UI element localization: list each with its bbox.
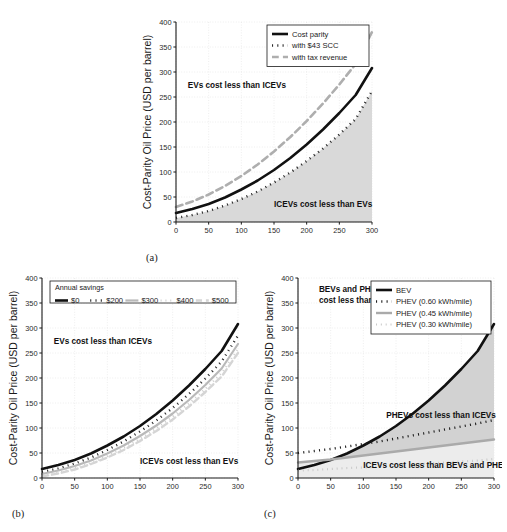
- chart-panel-a: 0501001502002503003504000501001502002503…: [140, 16, 380, 238]
- x-tick-label: 100: [357, 482, 369, 491]
- y-tick-label: 300: [25, 324, 37, 333]
- legend-label-3: PHEV (0.30 kWh/mile): [396, 320, 472, 329]
- y-tick-label: 400: [281, 274, 293, 283]
- chart-panel-b: 0501001502002503003504000501001502002503…: [6, 272, 246, 494]
- legend-label-0: BEV: [396, 286, 412, 295]
- plot-annotation: PHEVs cost less than ICEVs: [386, 411, 496, 420]
- x-axis-label: Battery Price (USD per kWh): [207, 236, 341, 238]
- grid-lines: [42, 278, 238, 478]
- x-tick-label: 150: [390, 482, 402, 491]
- panel-letter-a: (a): [146, 252, 158, 263]
- x-tick-label: 250: [333, 226, 345, 235]
- y-tick-label: 250: [159, 93, 171, 102]
- chart-svg: 0501001502002503003504000501001502002503…: [258, 272, 502, 494]
- y-tick-label: 100: [25, 424, 37, 433]
- chart-svg: 0501001502002503003504000501001502002503…: [6, 272, 246, 494]
- figure-container: 0501001502002503003504000501001502002503…: [0, 0, 507, 532]
- y-tick-label: 100: [159, 168, 171, 177]
- y-tick-label: 150: [25, 399, 37, 408]
- legend-title: Annual savings: [55, 283, 104, 292]
- y-tick-label: 300: [159, 68, 171, 77]
- x-axis-label: Battery Price (USD per kWh): [73, 492, 207, 494]
- x-tick-label: 150: [268, 226, 280, 235]
- x-tick-label: 150: [134, 482, 146, 491]
- y-tick-label: 50: [29, 449, 37, 458]
- y-tick-label: 200: [25, 374, 37, 383]
- y-tick-label: 100: [281, 424, 293, 433]
- legend-label-1: PHEV (0.60 kWh/mile): [396, 297, 472, 306]
- y-tick-label: 0: [167, 218, 171, 227]
- chart-legend: BEVPHEV (0.60 kWh/mile)PHEV (0.45 kWh/mi…: [371, 281, 491, 334]
- x-tick-label: 200: [300, 226, 312, 235]
- y-tick-label: 400: [25, 274, 37, 283]
- legend-label-3: $400: [177, 296, 194, 305]
- legend-label-0: Cost parity: [292, 30, 328, 39]
- y-axis-label: Cost-Parity Oil Price (USD per barrel): [7, 291, 19, 465]
- x-tick-label: 100: [101, 482, 113, 491]
- faint-header-artifact: [0, 0, 507, 14]
- x-tick-label: 250: [199, 482, 211, 491]
- plot-annotation: ICEVs cost less than BEVs and PHEVs: [363, 461, 502, 470]
- x-tick-label: 0: [174, 226, 178, 235]
- legend-label-1: $200: [106, 296, 123, 305]
- y-tick-label: 150: [159, 143, 171, 152]
- x-tick-label: 200: [166, 482, 178, 491]
- x-tick-label: 100: [235, 226, 247, 235]
- legend-label-2: with tax revenue: [291, 53, 347, 62]
- x-tick-label: 50: [327, 482, 335, 491]
- y-tick-label: 200: [159, 118, 171, 127]
- chart-panel-c: 0501001502002503003504000501001502002503…: [258, 272, 502, 494]
- legend-label-2: PHEV (0.45 kWh/mile): [396, 309, 472, 318]
- y-tick-label: 150: [281, 399, 293, 408]
- y-tick-label: 50: [285, 449, 293, 458]
- x-tick-label: 200: [422, 482, 434, 491]
- y-tick-label: 350: [281, 299, 293, 308]
- x-tick-label: 50: [205, 226, 213, 235]
- x-tick-label: 250: [455, 482, 467, 491]
- x-axis-label: Battery Price (USD per kWh): [329, 492, 463, 494]
- plot-annotation: EVs cost less than ICEVs: [188, 81, 287, 90]
- y-tick-label: 350: [25, 299, 37, 308]
- y-tick-label: 50: [163, 193, 171, 202]
- panel-letter-c: (c): [264, 508, 276, 519]
- plot-annotation: ICEVs cost less than EVs: [274, 200, 373, 209]
- x-tick-label: 0: [296, 482, 300, 491]
- x-tick-label: 0: [40, 482, 44, 491]
- chart-svg: 0501001502002503003504000501001502002503…: [140, 16, 380, 238]
- x-tick-label: 300: [366, 226, 378, 235]
- legend-label-0: $0: [71, 296, 79, 305]
- x-tick-label: 300: [232, 482, 244, 491]
- plot-annotation: EVs cost less than ICEVs: [54, 337, 153, 346]
- y-tick-label: 250: [281, 349, 293, 358]
- y-tick-label: 200: [281, 374, 293, 383]
- y-tick-label: 0: [33, 474, 37, 483]
- chart-legend: Annual savings$0$200$300$400$500: [50, 281, 236, 305]
- y-tick-label: 350: [159, 43, 171, 52]
- plot-annotation: ICEVs cost less than EVs: [140, 457, 239, 466]
- panel-letter-b: (b): [12, 508, 24, 519]
- y-tick-label: 300: [281, 324, 293, 333]
- y-tick-label: 0: [289, 474, 293, 483]
- y-tick-label: 400: [159, 18, 171, 27]
- legend-label-2: $300: [141, 296, 158, 305]
- y-axis-label: Cost-Parity Oil Price (USD per barrel): [263, 291, 275, 465]
- chart-legend: Cost paritywith $43 SCCwith tax revenue: [267, 25, 369, 67]
- y-tick-label: 250: [25, 349, 37, 358]
- legend-label-1: with $43 SCC: [291, 41, 339, 50]
- x-tick-label: 300: [488, 482, 500, 491]
- x-tick-label: 50: [71, 482, 79, 491]
- y-axis-label: Cost-Parity Oil Price (USD per barrel): [141, 35, 153, 209]
- legend-label-4: $500: [212, 296, 229, 305]
